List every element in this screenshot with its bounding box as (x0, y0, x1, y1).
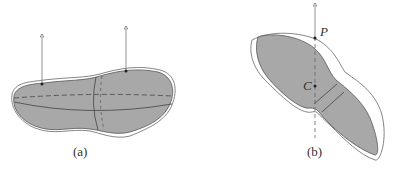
diagram-figure (0, 0, 394, 175)
panel-b-shape (251, 5, 384, 160)
panel-a-shape (12, 28, 175, 137)
point-label-p: P (320, 24, 328, 40)
caption-a: (a) (73, 144, 87, 160)
point-label-c: C (303, 78, 312, 94)
caption-b: (b) (307, 144, 322, 160)
